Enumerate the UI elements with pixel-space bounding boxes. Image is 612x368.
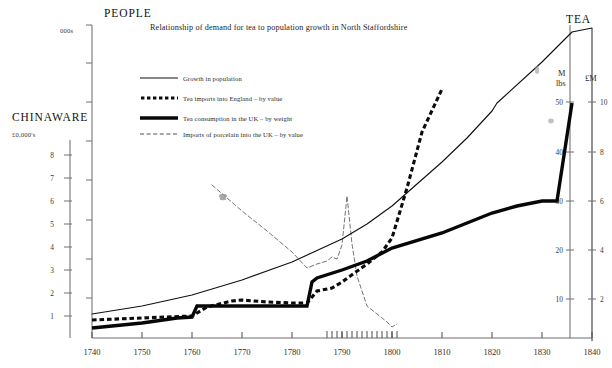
x-tick-1820: 1820 [483,347,500,357]
chart-legend: Growth in population Tea imports into En… [140,75,303,138]
tea-weight-tick-50: 50 [556,98,564,107]
legend-label-tea-consumption-weight: Tea consumption in the UK – by weight [183,115,292,122]
tea-value-unit: £M [585,74,597,83]
chinaware-axis-heading: CHINAWARE [12,111,88,123]
chinaware-tick-1: 1 [50,312,54,321]
chinaware-tick-2: 2 [50,289,54,298]
x-tick-1760: 1760 [183,347,200,357]
tea-weight-tick-40: 40 [556,148,564,157]
series-tea-imports-value [92,89,442,320]
legend-label-porcelain-imports: Imports of porcelain into the UK – by va… [183,131,303,138]
legend-label-population: Growth in population [183,75,242,82]
x-axis-minor-ticks [327,331,397,338]
chart-figure: Relationship of demand for tea to popula… [0,0,612,368]
tea-weight-tick-20: 20 [556,246,564,255]
x-tick-1770: 1770 [233,347,250,357]
people-axis-unit: 000s [60,27,73,34]
x-tick-1830: 1830 [533,347,550,357]
x-tick-1750: 1750 [133,347,150,357]
chinaware-tick-8: 8 [50,151,54,160]
legend-item-porcelain-imports: Imports of porcelain into the UK – by va… [140,131,303,138]
x-tick-1790: 1790 [333,347,350,357]
tea-weight-unit-line1: M [558,69,566,78]
chinaware-tick-5: 5 [50,220,54,229]
chinaware-tick-7: 7 [50,174,54,183]
legend-item-population: Growth in population [140,75,242,82]
tea-value-tick-4: 4 [600,246,604,255]
chinaware-axis-unit: £0,000's [12,131,36,138]
x-tick-1780: 1780 [283,347,300,357]
people-axis [86,25,92,338]
x-axis: 1740 1750 1760 1770 1780 1790 1800 1810 … [83,331,600,357]
tea-value-tick-2: 2 [600,295,604,304]
legend-item-tea-imports-value: Tea imports into England – by value [141,95,282,102]
x-tick-1840: 1840 [583,347,600,357]
chinaware-tick-4: 4 [50,243,54,252]
chart-canvas: Relationship of demand for tea to popula… [0,0,612,368]
tea-axis-heading: TEA [566,13,591,25]
x-tick-1810: 1810 [433,347,450,357]
chinaware-tick-3: 3 [50,266,54,275]
x-tick-1740: 1740 [83,347,100,357]
series-tea-consumption-weight [92,103,572,328]
legend-label-tea-imports-value: Tea imports into England – by value [183,95,282,102]
chart-title: Relationship of demand for tea to popula… [150,23,408,32]
x-tick-1800: 1800 [383,347,400,357]
people-axis-heading: PEOPLE [104,7,152,19]
tea-weight-unit-line2: lbs [556,79,566,88]
tea-weight-tick-10: 10 [556,295,564,304]
tea-value-tick-6: 6 [600,197,604,206]
tea-value-tick-10: 10 [600,98,608,107]
legend-item-tea-consumption-weight: Tea consumption in the UK – by weight [140,115,292,122]
chinaware-axis: 8 7 6 5 4 3 2 1 [50,140,72,338]
tea-value-tick-8: 8 [600,148,604,157]
chinaware-tick-6: 6 [50,197,54,206]
